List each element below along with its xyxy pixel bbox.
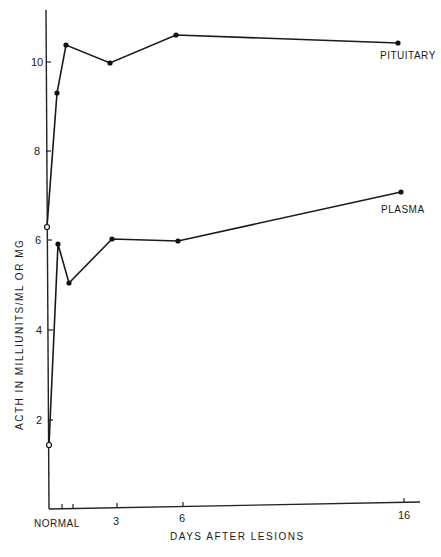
- pituitary-label: PITUITARY: [380, 50, 436, 61]
- y-tick-6: 6: [35, 234, 41, 246]
- plasma-label: PLASMA: [381, 204, 425, 215]
- x-tick-6: 6: [179, 512, 185, 524]
- plasma-markers: [55, 189, 403, 285]
- x-tick-3: 3: [113, 515, 119, 527]
- y-axis-label: ACTH IN MILLIUNITS/ML OR MG: [14, 239, 25, 430]
- x-axis-label: DAYS AFTER LESIONS: [170, 531, 305, 542]
- plasma-line: [49, 192, 401, 445]
- x-tick-normal: NORMAL: [34, 518, 80, 529]
- plasma-normal-marker: [47, 443, 52, 448]
- x-tick-16: 16: [398, 509, 410, 521]
- y-axis: [46, 10, 49, 509]
- y-tick-10: 10: [31, 56, 43, 68]
- chart: 10 8 6 4 2 NORMAL 3 6 16 DAYS AFTER LESI…: [0, 0, 441, 557]
- y-tick-2: 2: [36, 414, 42, 426]
- pituitary-line: [47, 35, 398, 227]
- y-tick-4: 4: [36, 324, 42, 336]
- y-tick-8: 8: [34, 145, 40, 157]
- pituitary-normal-marker: [45, 225, 50, 230]
- x-axis: [49, 502, 420, 509]
